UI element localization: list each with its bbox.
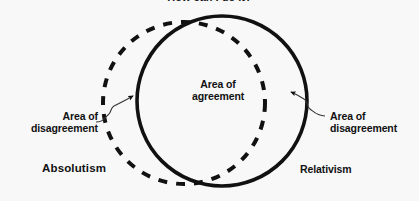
label-area-of-agreement: Area of agreement — [178, 78, 258, 102]
label-absolutism: Absolutism — [42, 162, 106, 175]
label-area-of-disagreement-left: Area of disagreement — [4, 110, 98, 134]
label-relativism: Relativism — [300, 163, 352, 175]
figure-title-clip: How can I do it? — [0, 0, 419, 4]
label-area-of-disagreement-right: Area of disagreement — [330, 110, 418, 134]
figure-title: How can I do it? — [0, 0, 419, 3]
absolutism-circle — [103, 22, 265, 184]
venn-diagram-figure: How can I do it? Area of agreement Area … — [0, 0, 419, 201]
